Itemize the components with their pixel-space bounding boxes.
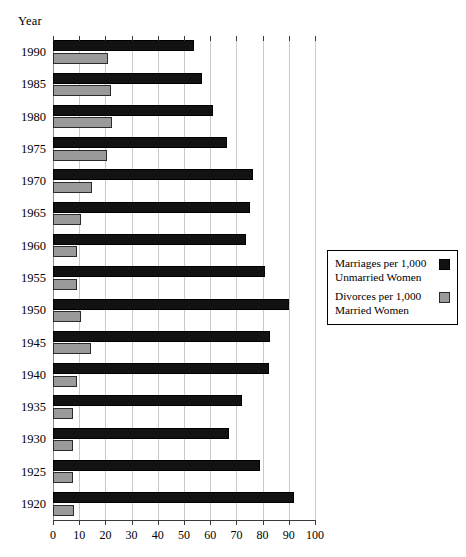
x-tick-label-100: 100 xyxy=(295,528,335,543)
x-tick-top-90 xyxy=(289,36,290,41)
bar-divorces-1935 xyxy=(53,408,73,419)
bar-divorces-1970 xyxy=(53,182,92,193)
x-tick-top-10 xyxy=(79,36,80,41)
bar-divorces-1985 xyxy=(53,85,111,96)
y-tick-label-1955: 1955 xyxy=(0,271,46,286)
x-tick-10 xyxy=(79,520,80,525)
x-tick-20 xyxy=(105,520,106,525)
y-axis-title: Year xyxy=(18,14,42,29)
bar-divorces-1965 xyxy=(53,214,81,225)
bar-divorces-1955 xyxy=(53,279,77,290)
x-tick-top-30 xyxy=(132,36,133,41)
legend-label-divorces: Divorces per 1,000 Married Women xyxy=(335,290,425,317)
bar-divorces-1980 xyxy=(53,117,112,128)
bar-marriages-1935 xyxy=(53,395,242,406)
bar-divorces-1945 xyxy=(53,343,91,354)
bar-divorces-1920 xyxy=(53,505,74,516)
legend-label-marriages: Marriages per 1,000 Unmarried Women xyxy=(335,257,430,284)
x-tick-0 xyxy=(53,520,54,525)
x-tick-top-50 xyxy=(184,36,185,41)
bar-marriages-1985 xyxy=(53,73,202,84)
bar-marriages-1940 xyxy=(53,363,269,374)
y-tick-label-1990: 1990 xyxy=(0,45,46,60)
bar-marriages-1945 xyxy=(53,331,270,342)
bar-divorces-1940 xyxy=(53,376,77,387)
y-tick-label-1985: 1985 xyxy=(0,77,46,92)
x-tick-top-0 xyxy=(53,36,54,41)
bar-marriages-1950 xyxy=(53,299,289,310)
y-tick-label-1965: 1965 xyxy=(0,206,46,221)
bar-divorces-1975 xyxy=(53,150,107,161)
gridline-90 xyxy=(289,36,290,520)
bar-divorces-1930 xyxy=(53,440,73,451)
y-tick-label-1940: 1940 xyxy=(0,368,46,383)
bar-marriages-1920 xyxy=(53,492,294,503)
y-tick-label-1930: 1930 xyxy=(0,432,46,447)
x-tick-top-20 xyxy=(105,36,106,41)
y-tick-label-1980: 1980 xyxy=(0,110,46,125)
x-tick-40 xyxy=(158,520,159,525)
x-tick-top-60 xyxy=(210,36,211,41)
x-tick-100 xyxy=(315,520,316,525)
bar-marriages-1955 xyxy=(53,266,265,277)
legend-entry-marriages: Marriages per 1,000 Unmarried Women xyxy=(335,257,450,284)
bar-marriages-1965 xyxy=(53,202,250,213)
y-tick-label-1935: 1935 xyxy=(0,400,46,415)
bar-divorces-1990 xyxy=(53,53,108,64)
gridline-80 xyxy=(263,36,264,520)
bar-marriages-1925 xyxy=(53,460,260,471)
y-tick-label-1945: 1945 xyxy=(0,336,46,351)
bar-divorces-1950 xyxy=(53,311,81,322)
bar-marriages-1980 xyxy=(53,105,213,116)
bar-marriages-1930 xyxy=(53,428,229,439)
legend-swatch-divorces-icon xyxy=(439,292,450,303)
x-tick-50 xyxy=(184,520,185,525)
bar-marriages-1975 xyxy=(53,137,227,148)
y-tick-label-1970: 1970 xyxy=(0,174,46,189)
y-tick-label-1920: 1920 xyxy=(0,497,46,512)
y-tick-label-1960: 1960 xyxy=(0,239,46,254)
x-tick-90 xyxy=(289,520,290,525)
bar-chart: Year Marriages per 1,000 Unmarried Women… xyxy=(0,0,466,557)
bar-marriages-1970 xyxy=(53,169,253,180)
gridline-70 xyxy=(236,36,237,520)
legend-entry-divorces: Divorces per 1,000 Married Women xyxy=(335,290,450,317)
x-tick-top-100 xyxy=(315,36,316,41)
bar-divorces-1960 xyxy=(53,246,77,257)
x-tick-70 xyxy=(236,520,237,525)
bar-marriages-1990 xyxy=(53,40,194,51)
y-tick-label-1950: 1950 xyxy=(0,303,46,318)
plot-area xyxy=(53,36,315,520)
x-tick-top-40 xyxy=(158,36,159,41)
x-tick-top-80 xyxy=(263,36,264,41)
y-tick-label-1925: 1925 xyxy=(0,465,46,480)
gridline-100 xyxy=(315,36,316,520)
x-tick-60 xyxy=(210,520,211,525)
bar-marriages-1960 xyxy=(53,234,246,245)
x-tick-30 xyxy=(132,520,133,525)
chart-legend: Marriages per 1,000 Unmarried WomenDivor… xyxy=(327,250,458,325)
x-tick-top-70 xyxy=(236,36,237,41)
legend-swatch-marriages-icon xyxy=(439,259,450,270)
y-tick-label-1975: 1975 xyxy=(0,142,46,157)
x-tick-80 xyxy=(263,520,264,525)
bar-divorces-1925 xyxy=(53,472,73,483)
